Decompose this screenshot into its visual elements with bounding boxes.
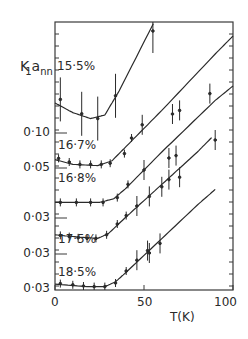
data-point xyxy=(96,117,99,120)
chart-figure: K1ann 0·10 0·05 0·03 0·03 0·03 0 50 100 … xyxy=(0,0,248,339)
x-axis-title: T(K) xyxy=(170,311,195,323)
data-point xyxy=(72,284,75,287)
data-point xyxy=(102,201,105,204)
data-point xyxy=(209,92,212,95)
data-point xyxy=(93,285,96,288)
y-title-tail: a xyxy=(32,58,41,74)
series-label-18-5: 18·5% xyxy=(58,266,96,278)
data-point xyxy=(109,162,112,165)
data-point xyxy=(161,186,164,189)
data-point xyxy=(136,205,139,208)
y-tick-label: 0·03 xyxy=(10,247,50,259)
data-point xyxy=(80,113,83,116)
data-point xyxy=(130,137,133,140)
data-point xyxy=(89,163,92,166)
data-point xyxy=(82,285,85,288)
data-point xyxy=(125,214,128,217)
data-point xyxy=(100,163,103,166)
data-point xyxy=(168,157,171,160)
data-point xyxy=(125,270,128,273)
data-point xyxy=(104,285,107,288)
data-point xyxy=(59,98,62,101)
x-tick-label: 100 xyxy=(214,296,237,308)
data-point xyxy=(143,169,146,172)
data-point xyxy=(148,195,151,198)
data-point xyxy=(159,242,162,245)
data-point xyxy=(114,282,117,285)
series-label-16-7: 16·7% xyxy=(58,139,96,151)
data-point xyxy=(59,282,62,285)
data-point xyxy=(168,178,171,181)
y-axis-title: K1ann xyxy=(20,59,53,77)
data-point xyxy=(114,95,117,98)
data-point xyxy=(116,196,119,199)
data-point xyxy=(171,113,174,116)
data-point xyxy=(59,201,62,204)
y-tick-label: 0·03 xyxy=(10,282,50,294)
data-point xyxy=(148,252,151,255)
y-tick-label: 0·03 xyxy=(10,211,50,223)
y-tick-label: 0·05 xyxy=(10,161,50,173)
y-tick-label: 0·10 xyxy=(10,126,50,138)
data-point xyxy=(152,30,155,33)
data-point xyxy=(105,234,108,237)
data-point xyxy=(178,109,181,112)
data-point xyxy=(89,201,92,204)
data-point xyxy=(79,163,82,166)
data-point xyxy=(214,139,217,142)
data-point xyxy=(127,183,130,186)
data-point xyxy=(141,124,144,127)
data-point xyxy=(57,157,60,160)
data-point xyxy=(116,223,119,226)
data-point xyxy=(175,154,178,157)
fit-curve xyxy=(55,138,212,239)
series-label-15-5: 15·5% xyxy=(57,60,95,72)
x-tick-label: 50 xyxy=(137,296,152,308)
series-label-16-8: 16·8% xyxy=(58,172,96,184)
y-title-tail-sub: nn xyxy=(40,66,53,77)
data-point xyxy=(136,259,139,262)
data-point xyxy=(178,176,181,179)
data-point xyxy=(75,201,78,204)
x-tick-label: 0 xyxy=(51,296,59,308)
series-label-17-5: 17·5% xyxy=(58,233,96,245)
data-point xyxy=(68,161,71,164)
data-point xyxy=(123,152,126,155)
